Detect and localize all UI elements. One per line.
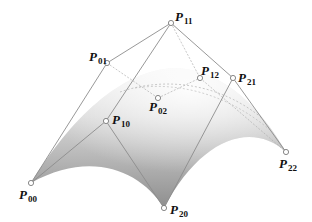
control-point-p00-marker (28, 180, 33, 185)
label-p11: P11 (175, 10, 192, 23)
label-letter: P (19, 187, 27, 202)
label-p10: P10 (112, 113, 130, 126)
bezier-surface-diagram: P00P01P02P10P11P12P20P21P22 (0, 0, 312, 222)
label-subscript: 02 (158, 106, 167, 116)
label-letter: P (170, 202, 178, 217)
control-point-p11-marker (168, 20, 173, 25)
surface-highlight (31, 68, 286, 208)
control-point-p22-marker (283, 149, 288, 154)
label-subscript: 12 (210, 70, 219, 80)
control-point-p20-marker (161, 205, 166, 210)
label-letter: P (175, 9, 183, 24)
label-subscript: 10 (121, 119, 130, 129)
label-letter: P (89, 49, 97, 64)
label-subscript: 22 (288, 163, 297, 173)
label-subscript: 21 (247, 77, 256, 87)
label-p20: P20 (170, 203, 188, 216)
label-letter: P (201, 63, 209, 78)
label-subscript: 11 (184, 16, 193, 26)
label-subscript: 01 (98, 56, 107, 66)
control-point-p10-marker (103, 118, 108, 123)
label-p22: P22 (279, 157, 297, 170)
label-letter: P (279, 156, 287, 171)
label-subscript: 00 (28, 194, 37, 204)
label-p12: P12 (201, 64, 219, 77)
label-subscript: 20 (179, 209, 188, 219)
label-p21: P21 (238, 71, 256, 84)
label-letter: P (149, 99, 157, 114)
label-p01: P01 (89, 50, 107, 63)
label-letter: P (238, 70, 246, 85)
label-letter: P (112, 112, 120, 127)
label-p00: P00 (19, 188, 37, 201)
label-p02: P02 (149, 100, 167, 113)
net-edge-p01-p11 (107, 23, 171, 63)
control-point-p21-marker (230, 75, 235, 80)
